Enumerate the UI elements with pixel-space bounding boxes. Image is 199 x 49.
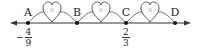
heart-icon [92,2,110,22]
number-line-diagram: A B C D − 4 9 2 3 [0,0,199,49]
right-arrow-icon [184,21,191,26]
heart-icon [141,2,159,22]
fraction-sign: − [16,33,24,42]
left-arrow-icon [10,21,17,26]
value-c-fraction: 2 3 [122,27,130,48]
fraction-denominator: 9 [26,38,32,48]
label-c: C [122,7,130,18]
label-b: B [73,7,81,18]
value-a-fraction: − 4 9 [16,27,32,48]
point-a [26,21,30,25]
label-d: D [171,7,180,18]
fraction-numerator: 4 [25,27,33,38]
heart-icon [43,2,61,22]
label-a: A [24,7,32,18]
fraction-denominator: 3 [123,38,129,48]
fraction-numerator: 2 [122,27,130,38]
point-c [124,21,128,25]
point-d [173,21,177,25]
point-b [75,21,79,25]
